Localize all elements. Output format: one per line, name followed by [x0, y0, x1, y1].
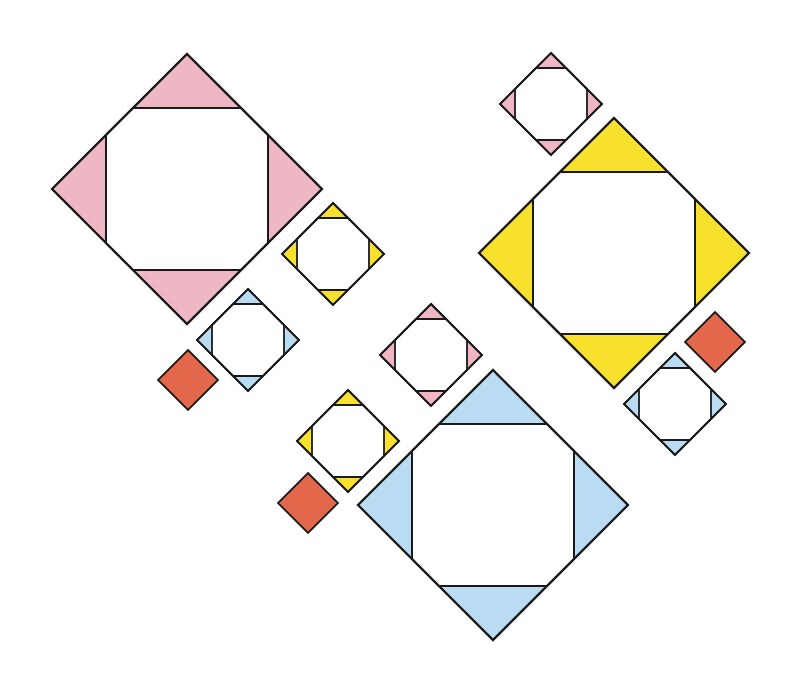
small-pink-top	[500, 53, 602, 155]
red-diamond	[158, 350, 218, 410]
red-diamond	[685, 312, 745, 372]
red-mid	[278, 473, 338, 533]
inner-octagon	[106, 108, 268, 270]
small-yellow-upper	[282, 203, 384, 305]
small-pink-mid	[380, 304, 482, 406]
tile-pattern-diagram	[0, 0, 787, 682]
big-blue	[358, 370, 628, 640]
big-pink	[52, 54, 322, 324]
red-left	[158, 350, 218, 410]
inner-octagon	[533, 172, 695, 334]
red-right	[685, 312, 745, 372]
inner-octagon	[412, 424, 574, 586]
red-diamond	[278, 473, 338, 533]
